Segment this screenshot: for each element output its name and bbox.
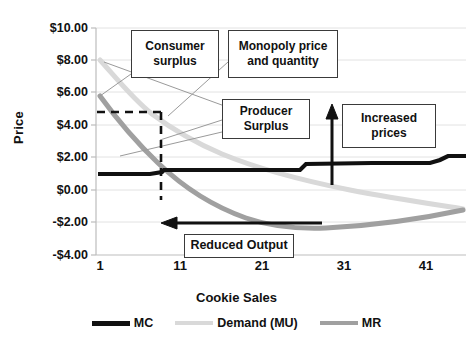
callout-producer-surplus: Producer Surplus: [222, 99, 310, 139]
callout-line: Increased: [361, 111, 417, 125]
legend-label-demand: Demand (MU): [217, 316, 298, 330]
callout-monopoly-price-and-quantity: Monopoly price and quantity: [228, 30, 338, 78]
chart-legend: MC Demand (MU) MR: [0, 316, 473, 330]
y-tick-marks: [91, 28, 96, 255]
callout-line: and quantity: [247, 54, 318, 68]
legend-swatch-mr: [320, 321, 358, 325]
x-tick-label: 41: [419, 258, 433, 273]
legend-swatch-mc: [92, 321, 130, 326]
legend-label-mr: MR: [362, 316, 381, 330]
chart-container: Price $10.00 $8.00 $6.00 $4.00 $2.00 $0.…: [0, 0, 473, 364]
x-axis-title: Cookie Sales: [0, 290, 473, 305]
x-tick-label: 11: [173, 258, 187, 273]
x-tick-label: 31: [337, 258, 351, 273]
x-tick-label: 1: [96, 258, 103, 273]
callout-reduced-output: Reduced Output: [184, 234, 294, 258]
legend-label-mc: MC: [134, 316, 153, 330]
increased-prices-arrow: [326, 104, 338, 185]
callout-line: Surplus: [244, 119, 289, 133]
legend-item-demand[interactable]: Demand (MU): [175, 316, 298, 330]
callout-line: prices: [371, 126, 406, 140]
callout-increased-prices: Increased prices: [342, 104, 436, 148]
legend-swatch-demand: [175, 321, 213, 325]
callout-line: surplus: [153, 54, 196, 68]
callout-line: Reduced Output: [190, 238, 287, 253]
legend-item-mc[interactable]: MC: [92, 316, 153, 330]
legend-item-mr[interactable]: MR: [320, 316, 381, 330]
callout-line: Consumer: [145, 39, 204, 53]
x-tick-label: 21: [255, 258, 269, 273]
callout-line: Monopoly price: [239, 39, 328, 53]
callout-consumer-surplus: Consumer surplus: [131, 30, 219, 78]
callout-line: Producer: [240, 104, 293, 118]
